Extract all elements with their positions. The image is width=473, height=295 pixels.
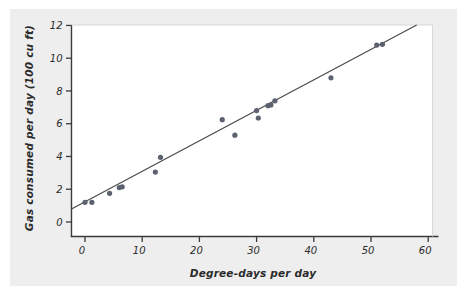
- y-axis-title: Gas consumed per day (100 cu ft): [23, 25, 35, 231]
- x-tick-label: 20: [190, 245, 203, 256]
- y-tick-label: 6: [56, 118, 62, 129]
- y-tick-label: 8: [56, 86, 62, 97]
- y-tick-label: 12: [50, 20, 63, 31]
- data-point: [82, 200, 87, 205]
- y-tick-label: 4: [56, 151, 62, 162]
- plot-area: [72, 25, 433, 237]
- y-tick-label: 10: [50, 53, 63, 64]
- data-point: [158, 155, 163, 160]
- x-tick-label: 50: [362, 245, 375, 256]
- figure: 0246810120102030405060 Degree-days per d…: [0, 0, 473, 295]
- data-point: [107, 191, 112, 196]
- y-tick-label: 2: [56, 184, 62, 195]
- data-point: [89, 200, 94, 205]
- data-point: [272, 98, 277, 103]
- x-tick-label: 60: [419, 245, 432, 256]
- data-point: [232, 133, 237, 138]
- y-tick-label: 0: [56, 217, 62, 228]
- scatter-plot: 0246810120102030405060 Degree-days per d…: [0, 0, 473, 295]
- data-point: [220, 117, 225, 122]
- data-point: [374, 42, 379, 47]
- data-point: [268, 102, 273, 107]
- data-point: [153, 169, 158, 174]
- data-point: [120, 184, 125, 189]
- data-point: [328, 75, 333, 80]
- x-tick-label: 40: [304, 245, 317, 256]
- data-point: [256, 115, 261, 120]
- x-axis-title: Degree-days per day: [190, 267, 318, 279]
- x-tick-label: 30: [247, 245, 260, 256]
- data-point: [254, 108, 259, 113]
- x-tick-label: 10: [133, 245, 146, 256]
- x-tick-label: 0: [79, 245, 85, 256]
- data-point: [380, 42, 385, 47]
